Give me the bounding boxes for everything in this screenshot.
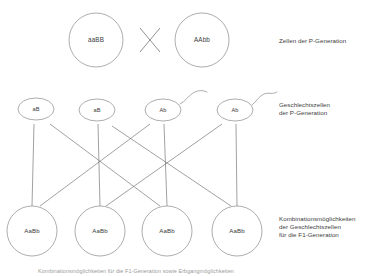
f1-cell-label-4: AaBb (229, 227, 245, 234)
row-label-f1-line1: Kombinationsmöglichkeiten (279, 215, 356, 223)
cross-symbol-icon (140, 28, 160, 52)
connector-vertical-1 (32, 124, 34, 206)
row-label-gametes-line1: Geschlechtszellen (279, 101, 330, 109)
p-cell-label-2: AAbb (194, 36, 210, 43)
connector-vertical-4 (236, 124, 237, 206)
row-label-p-generation: Zellen der P-Generation (279, 37, 346, 45)
p-cell-label-1: aaBB (88, 36, 104, 43)
f1-cell-label-1: AaBb (24, 227, 40, 234)
connector-diagonal-3-1 (40, 124, 150, 206)
gamete-label-2: aB (93, 107, 100, 113)
gamete-label-1: aB (32, 106, 39, 112)
connector-lines-group (32, 124, 237, 206)
connector-diagonal-2-4 (112, 126, 231, 206)
gamete-flagellum-icon-3 (180, 91, 207, 104)
gamete-label-4: Ab (231, 107, 238, 113)
row-label-f1-line3: für die F1-Generation (279, 231, 339, 239)
gamete-label-3: Ab (159, 107, 166, 113)
f1-cell-label-3: AaBb (159, 227, 175, 234)
diagram-caption: Kombinationsmöglichkeiten für die F1-Gen… (38, 268, 234, 274)
p-generation-group: aaBB AAbb (69, 13, 229, 67)
connector-diagonal-1-3 (50, 124, 160, 206)
gamete-group: aB aB Ab Ab (18, 91, 277, 121)
row-label-gametes-line2: der P-Generation (279, 109, 327, 117)
genetics-diagram-canvas: aaBB AAbb aB aB Ab Ab (0, 0, 372, 276)
gamete-flagellum-icon-4 (252, 92, 277, 105)
connector-vertical-2 (98, 124, 100, 206)
f1-generation-group: AaBb AaBb AaBb AaBb (7, 206, 262, 256)
connector-diagonal-4-2 (106, 124, 222, 206)
f1-cell-label-2: AaBb (92, 227, 108, 234)
row-label-f1-line2: der Geschlechtszellen (279, 223, 341, 231)
